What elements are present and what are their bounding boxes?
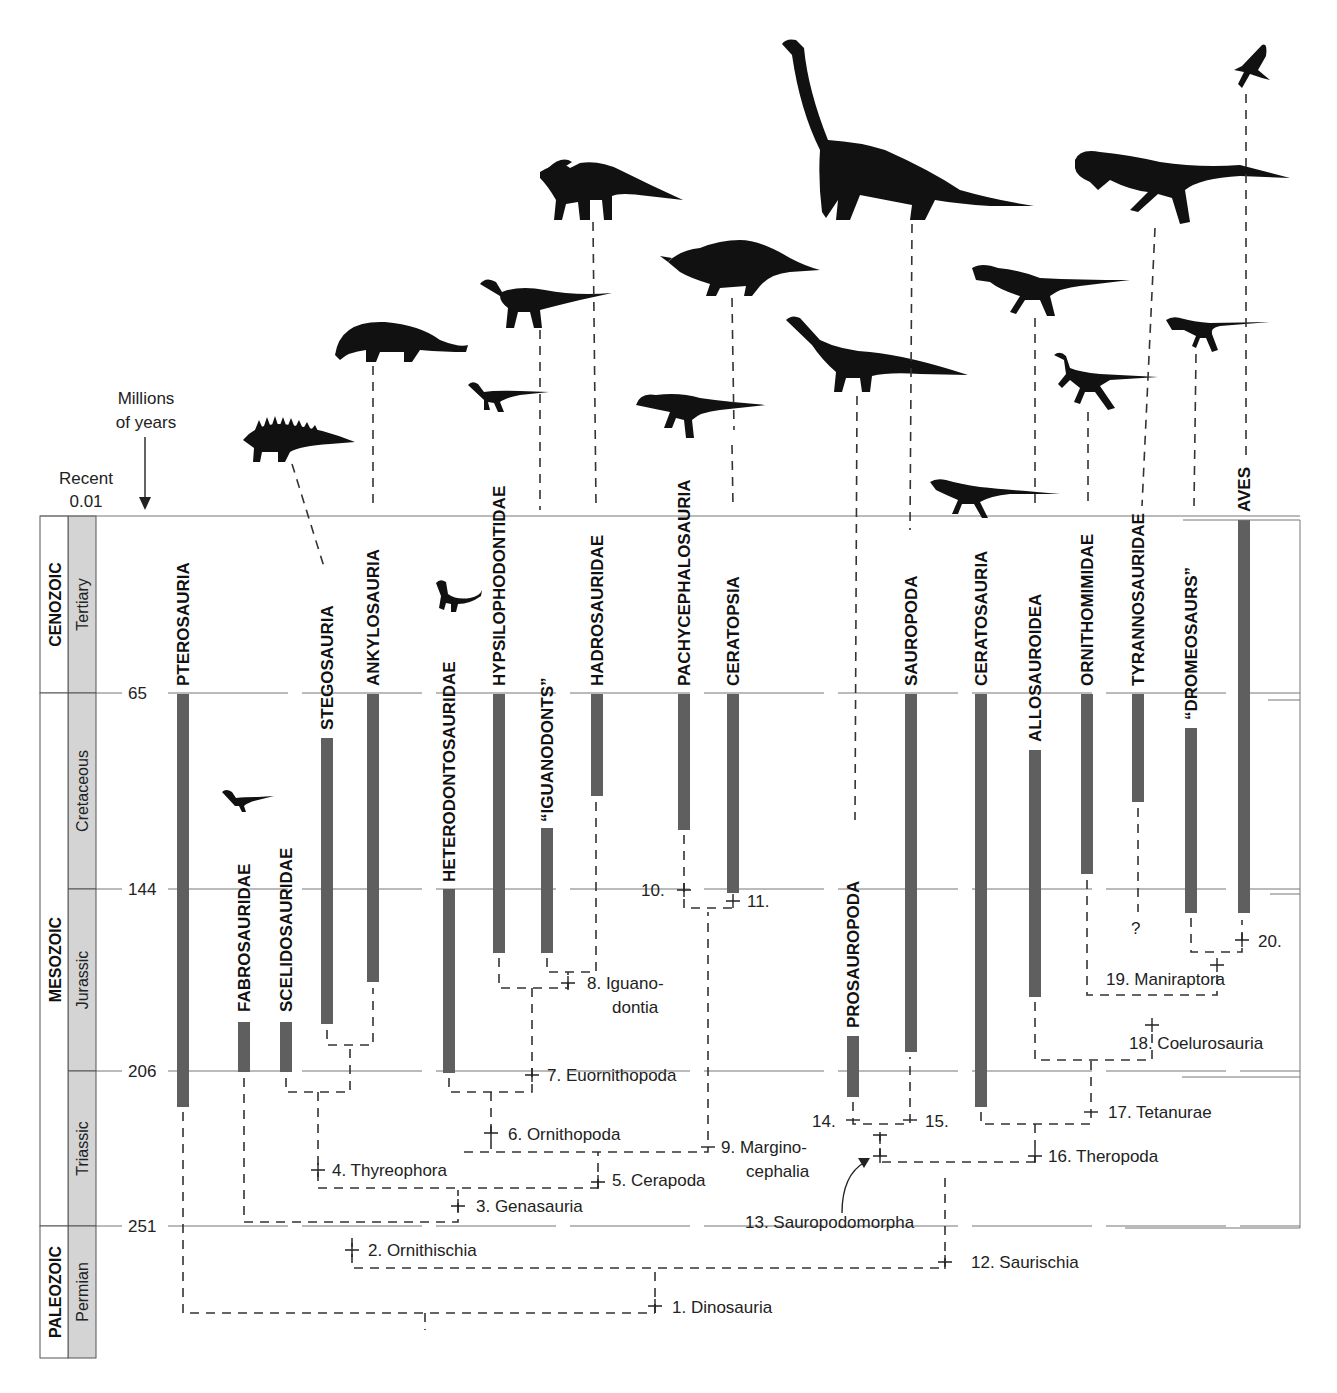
- prosauropod-silhouette: [786, 316, 968, 392]
- taxon-label: PACHYCEPHALOSAURIA: [675, 479, 694, 686]
- taxon-range-bar: [727, 694, 739, 893]
- clade-node-label: 19. Maniraptora: [1106, 970, 1226, 989]
- taxa: PTEROSAURIAFABROSAURIDAESCELIDOSAURIDAES…: [174, 467, 1254, 1107]
- taxon-range-bar: [975, 694, 987, 1107]
- clade-node-label: 9. Margino-: [721, 1138, 807, 1157]
- taxon-label: AVES: [1235, 467, 1254, 512]
- bird-silhouette: [1234, 44, 1270, 88]
- period-label: Permian: [74, 1262, 91, 1322]
- clade-node-label: 11.: [747, 892, 769, 911]
- taxon-label: PROSAUROPODA: [844, 881, 863, 1028]
- sauropodomorpha-arrow: [842, 1158, 870, 1213]
- node-labels: 1. Dinosauria2. Ornithischia3. Genasauri…: [332, 881, 1282, 1317]
- axis-title-line2: of years: [116, 413, 176, 432]
- clade-node-label: 3. Genasauria: [476, 1197, 583, 1216]
- arrow-icon: [858, 1158, 870, 1168]
- taxon-range-bar: [1238, 520, 1250, 913]
- taxon-range-bar: [905, 694, 917, 1052]
- era-label: CENOZOIC: [47, 562, 64, 647]
- taxon-range-bar: [1185, 728, 1197, 913]
- taxon-range-bar: [1081, 694, 1093, 874]
- ornithomimid-silhouette: [1054, 353, 1158, 410]
- taxon-range-bar: [238, 1022, 250, 1072]
- taxon-label: STEGOSAURIA: [318, 605, 337, 730]
- dinosaur-phylogeny-diagram: Millions of years Recent 0.01 TertiaryCr…: [0, 0, 1337, 1393]
- taxon-range-bar: [541, 828, 553, 953]
- ceratopsian-silhouette: [660, 240, 820, 296]
- cladogram-branches: [183, 800, 1242, 1330]
- recent-label: Recent: [59, 469, 113, 488]
- pachycephalosaur-silhouette: [636, 394, 766, 438]
- clade-node-label: 2. Ornithischia: [368, 1241, 477, 1260]
- clade-node-label: 18. Coelurosauria: [1129, 1034, 1264, 1053]
- taxon-label: HYPSILOPHODONTIDAE: [490, 486, 509, 686]
- time-tick-label: 65: [128, 684, 147, 703]
- silhouette-connectors: [292, 94, 1246, 820]
- ceratosaur-silhouette: [930, 479, 1060, 518]
- taxon-range-bar: [1029, 750, 1041, 997]
- stegosaur-silhouette: [243, 416, 355, 462]
- taxon-label: FABROSAURIDAE: [235, 864, 254, 1012]
- allosaur-silhouette: [972, 265, 1130, 316]
- period-label: Jurassic: [74, 951, 91, 1010]
- time-tick-label: 206: [128, 1062, 156, 1081]
- taxon-label: HETERODONTOSAURIDAE: [440, 661, 459, 882]
- clade-node-label: 15.: [925, 1112, 949, 1131]
- taxon-label: ALLOSAUROIDEA: [1026, 594, 1045, 742]
- clade-node-label: ?: [1131, 919, 1140, 938]
- axis-title-line1: Millions: [118, 389, 175, 408]
- clade-node-label: 12. Saurischia: [971, 1253, 1079, 1272]
- clade-node-label: 20.: [1258, 932, 1282, 951]
- taxon-label: SAUROPODA: [902, 575, 921, 686]
- taxon-label: ORNITHOMIMIDAE: [1078, 534, 1097, 686]
- taxon-range-bar: [321, 738, 333, 1024]
- hadrosaur-silhouette: [540, 160, 683, 220]
- clade-node-label: 16. Theropoda: [1048, 1147, 1159, 1166]
- heterodontosaur-silhouette: [436, 580, 482, 612]
- taxon-label: HADROSAURIDAE: [588, 535, 607, 686]
- taxon-label: PTEROSAURIA: [174, 562, 193, 686]
- taxon-label: TYRANNOSAURIDAE: [1129, 513, 1148, 686]
- clade-node-label: 5. Cerapoda: [612, 1171, 706, 1190]
- time-tick-label: 251: [128, 1217, 156, 1236]
- clade-node-label: 13. Sauropodomorpha: [745, 1213, 915, 1232]
- recent-value: 0.01: [69, 492, 102, 511]
- era-label: PALEOZOIC: [47, 1245, 64, 1338]
- clade-node-label: dontia: [612, 998, 659, 1017]
- axis-header: Millions of years Recent 0.01: [59, 389, 176, 511]
- taxon-range-bar: [591, 694, 603, 796]
- period-label: Tertiary: [74, 578, 91, 630]
- ankylosaur-silhouette: [335, 322, 468, 362]
- clade-node-label: 14.: [812, 1112, 836, 1131]
- era-label: MESOZOIC: [47, 916, 64, 1002]
- taxon-range-bar: [177, 694, 189, 1107]
- taxon-range-bar: [280, 1022, 292, 1072]
- taxon-range-bar: [678, 694, 690, 830]
- clade-node-label: cephalia: [746, 1162, 810, 1181]
- taxon-label: “IGUANODONTS”: [538, 678, 557, 823]
- iguanodont-silhouette: [480, 279, 612, 328]
- taxon-label: ANKYLOSAURIA: [364, 549, 383, 686]
- fabrosaur-silhouette: [222, 790, 274, 812]
- caption-cutoff: [20, 1386, 640, 1393]
- dromaeosaur-silhouette: [1166, 317, 1270, 352]
- period-label: Cretaceous: [74, 750, 91, 832]
- clade-node-label: 4. Thyreophora: [332, 1161, 448, 1180]
- taxon-label: CERATOPSIA: [724, 576, 743, 686]
- taxon-range-bar: [847, 1036, 859, 1097]
- clade-node-label: 17. Tetanurae: [1108, 1103, 1212, 1122]
- clade-node-label: 7. Euornithopoda: [547, 1066, 677, 1085]
- taxon-range-bar: [1132, 694, 1144, 802]
- tyrannosaur-silhouette: [1075, 151, 1290, 224]
- taxon-label: SCELIDOSAURIDAE: [277, 848, 296, 1012]
- silhouettes: [222, 40, 1290, 813]
- clade-node-label: 10.: [641, 881, 665, 900]
- time-tick-label: 144: [128, 880, 156, 899]
- clade-node-label: 8. Iguano-: [587, 974, 664, 993]
- taxon-range-bar: [493, 694, 505, 953]
- taxon-label: CERATOSAURIA: [972, 551, 991, 686]
- geologic-timescale: TertiaryCretaceousJurassicTriassicPermia…: [40, 516, 1300, 1358]
- taxon-range-bar: [443, 889, 455, 1073]
- taxon-label: “DROMEOSAURS”: [1182, 567, 1201, 720]
- clade-node-label: 1. Dinosauria: [672, 1298, 773, 1317]
